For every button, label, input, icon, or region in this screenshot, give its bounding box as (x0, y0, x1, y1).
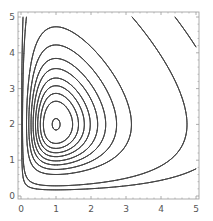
x-axis-tick-labels: 012345 (18, 204, 199, 214)
contour-line (27, 27, 132, 175)
y-axis-tick-labels: 012345 (9, 12, 15, 201)
y-tick-label: 1 (9, 155, 15, 165)
x-tick-label: 3 (123, 204, 129, 214)
contour-plot: 012345 012345 (0, 0, 213, 221)
y-tick-label: 3 (9, 84, 15, 94)
x-tick-label: 1 (53, 204, 59, 214)
y-tick-label: 0 (9, 191, 15, 201)
contour-line (23, 17, 187, 186)
contour-line (52, 119, 60, 130)
contour-line (31, 58, 106, 164)
axis-ticks (18, 12, 199, 199)
x-tick-label: 2 (88, 204, 94, 214)
x-tick-label: 5 (193, 204, 199, 214)
x-tick-label: 0 (18, 204, 24, 214)
y-tick-label: 4 (9, 48, 15, 58)
y-tick-label: 5 (9, 12, 15, 22)
x-tick-label: 4 (158, 204, 164, 214)
contour-lines (22, 17, 196, 190)
plot-frame (18, 12, 199, 199)
y-tick-label: 2 (9, 119, 15, 129)
contour-line (43, 101, 72, 143)
